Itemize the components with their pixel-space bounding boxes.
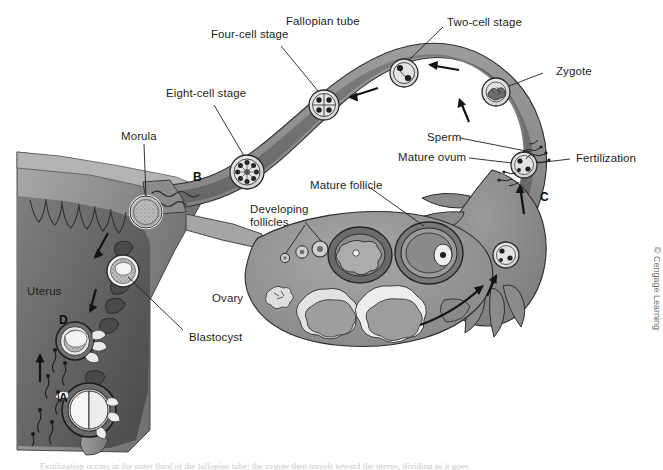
marker-c: C: [540, 190, 549, 204]
marker-d: D: [59, 313, 68, 327]
label-uterus: Uterus: [27, 285, 61, 298]
label-developing-follicles-line2: follicles: [250, 216, 289, 229]
leader-mature-ovum: [469, 158, 512, 163]
label-developing-follicles-line1: Developing: [250, 203, 309, 216]
blastocyst-cell: [107, 255, 139, 287]
label-mature-ovum: Mature ovum: [398, 151, 466, 164]
zygote-cell: [482, 78, 510, 106]
label-fertilization: Fertilization: [576, 152, 636, 165]
eight-cell-stage-cell: [230, 155, 264, 189]
four-cell-stage-cell: [309, 90, 339, 120]
antral-follicle: [328, 227, 392, 283]
marker-b: B: [193, 170, 202, 184]
figure-caption: Fertilization occurs in the outer third …: [40, 461, 640, 470]
released-ovum-cell: [493, 242, 519, 268]
label-blastocyst: Blastocyst: [189, 331, 242, 344]
label-morula: Morula: [121, 130, 157, 143]
copyright-credit: © Cengage Learning: [652, 247, 662, 330]
leader-eight-cell: [214, 105, 244, 156]
label-fallopian-tube: Fallopian tube: [286, 15, 360, 28]
mature-ovum-cell: [511, 152, 537, 178]
morula-cell: [130, 196, 162, 228]
label-sperm: Sperm: [427, 131, 461, 144]
ovary-group: [186, 212, 493, 347]
label-mature-follicle: Mature follicle: [310, 179, 382, 192]
figure-canvas: Eight-cell stage Four-cell stage Fallopi…: [0, 0, 663, 470]
label-zygote: Zygote: [556, 65, 592, 78]
label-eight-cell-stage: Eight-cell stage: [166, 87, 246, 100]
label-two-cell-stage: Two-cell stage: [447, 16, 522, 29]
mature-follicle: [395, 222, 463, 284]
label-ovary: Ovary: [212, 292, 243, 305]
marker-a: A: [59, 391, 68, 405]
leader-sperm: [460, 138, 531, 152]
two-cell-stage-cell: [390, 59, 418, 87]
leader-four-cell: [281, 46, 318, 91]
label-four-cell-stage: Four-cell stage: [211, 28, 289, 41]
